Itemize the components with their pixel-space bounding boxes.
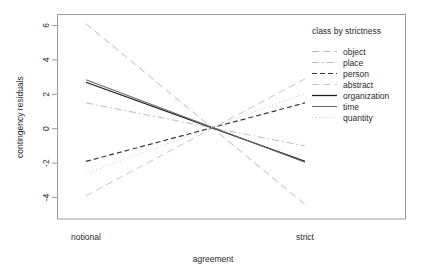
legend-label-person: person (343, 69, 369, 79)
series-line-quantity (86, 93, 305, 173)
legend-label-object: object (343, 47, 366, 57)
y-tick-label-neg2: -2 (41, 159, 51, 167)
y-tick-label-6: 6 (41, 23, 51, 28)
legend-title: class by strictness (312, 26, 381, 36)
y-tick-label-0: 0 (41, 126, 51, 131)
contingency-residuals-interaction-plot: 6 4 2 0 -2 -4 contingency residuals noti… (0, 0, 427, 277)
series-lines (86, 24, 305, 205)
x-axis-label: agreement (193, 254, 234, 264)
legend-label-time: time (343, 102, 359, 112)
chart-canvas: 6 4 2 0 -2 -4 contingency residuals noti… (0, 0, 427, 277)
y-tick-label-4: 4 (41, 57, 51, 62)
x-axis-tick-labels: notional strict (71, 232, 314, 242)
legend-label-quantity: quantity (343, 113, 374, 123)
legend-label-abstract: abstract (343, 80, 374, 90)
series-line-time (86, 80, 305, 163)
x-tick-label-notional: notional (71, 232, 101, 242)
y-axis-tick-labels: 6 4 2 0 -2 -4 (41, 23, 51, 201)
y-axis-ticks (52, 26, 58, 198)
x-tick-label-strict: strict (296, 232, 315, 242)
series-line-person (86, 103, 305, 161)
legend-label-organization: organization (343, 91, 390, 101)
legend-entries: objectplacepersonabstractorganizationtim… (312, 47, 390, 123)
y-axis-label: contingency residuals (15, 76, 25, 158)
legend: class by strictness objectplacepersonabs… (312, 26, 390, 123)
series-line-place (86, 103, 305, 146)
y-tick-label-2: 2 (41, 92, 51, 97)
series-line-abstract (86, 79, 305, 196)
series-line-object (86, 24, 305, 205)
legend-label-place: place (343, 58, 364, 68)
y-tick-label-neg4: -4 (41, 193, 51, 201)
